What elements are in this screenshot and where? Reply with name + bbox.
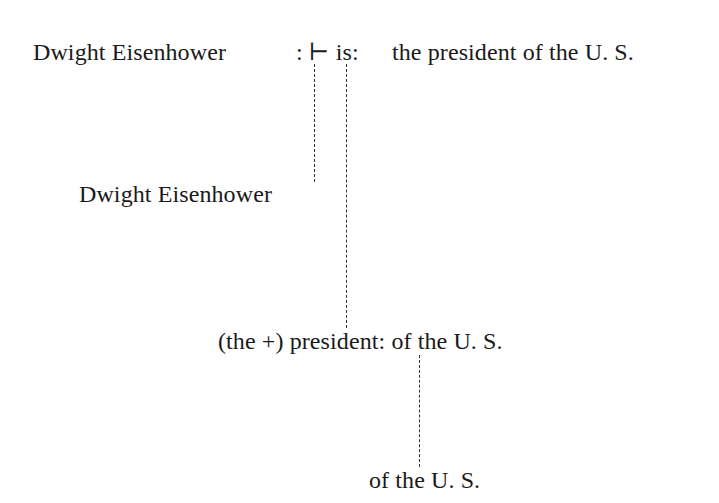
president-node: (the +) president: of the U. S. (218, 327, 503, 355)
root-subject: Dwight Eisenhower (33, 38, 226, 66)
complement-node: of the U. S. (369, 466, 480, 494)
root-operator: : ⊢ is: (296, 38, 359, 66)
edge-is-to-president (346, 64, 347, 328)
edge-president-to-complement (419, 355, 420, 467)
root-predicate: the president of the U. S. (392, 38, 634, 66)
subject-node: Dwight Eisenhower (79, 180, 272, 208)
edge-turnstile-to-subject (314, 64, 315, 182)
